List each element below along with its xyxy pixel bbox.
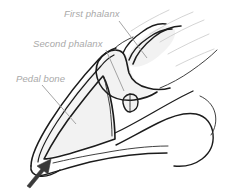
label-first-phalanx: First phalanx [64,8,121,19]
diagram-canvas: First phalanx Second phalanx Pedal bone [0,0,231,190]
heel-bulb-outline [116,113,213,166]
pastern-skin-line [160,50,217,88]
label-pedal-bone: Pedal bone [16,73,65,84]
heel-bulb-crease [200,96,216,135]
hoof-anatomy-diagram: First phalanx Second phalanx Pedal bone [0,0,231,190]
label-second-phalanx: Second phalanx [33,38,104,49]
